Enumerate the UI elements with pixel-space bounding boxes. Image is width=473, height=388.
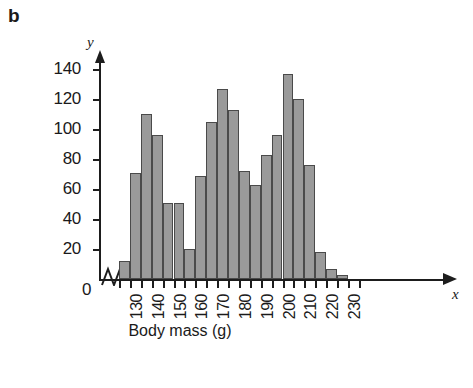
y-tick [93,249,99,251]
x-tick [304,281,306,288]
x-tick [195,281,197,288]
x-tick [119,281,121,288]
x-tick [184,281,186,288]
histogram-bar [228,110,239,280]
x-tick-label: 210 [303,294,319,319]
histogram-bar [272,135,283,279]
x-tick-label: 180 [238,294,254,319]
y-tick [93,159,99,161]
histogram-bar [326,269,337,280]
y-tick-label: 140 [54,60,81,77]
x-axis-title: Body mass (g) [30,322,330,340]
x-tick [206,281,208,288]
x-tick-label: 170 [216,294,232,319]
histogram-bar [152,135,163,279]
x-tick-label: 160 [194,294,210,319]
histogram-bar [293,99,304,279]
x-tick [261,281,263,288]
x-axis-symbol: x [452,286,459,303]
y-tick [93,69,99,71]
x-tick [337,281,339,288]
histogram-bar [217,89,228,280]
histogram-bars [101,48,447,279]
x-tick [239,281,241,288]
x-tick [326,281,328,288]
x-tick-label: 230 [347,294,363,319]
x-tick [217,281,219,288]
y-tick-label: 80 [63,150,81,167]
histogram-bar [184,249,195,279]
y-tick [93,219,99,221]
plot-area: y x 0 20406080100120140 1301401501601701… [99,48,459,288]
histogram-bar [174,203,185,280]
y-tick-label: 100 [54,120,81,137]
x-tick-label: 220 [325,294,341,319]
histogram-bar [315,252,326,279]
histogram-bar [304,165,315,279]
x-tick [348,281,350,288]
x-tick-label: 200 [282,294,298,319]
x-tick-label: 150 [173,294,189,319]
x-tick [228,281,230,288]
histogram-bar [163,203,174,280]
origin-label: 0 [82,281,91,298]
x-tick [272,281,274,288]
histogram-bar [250,185,261,280]
x-tick [141,281,143,288]
panel-letter: b [8,6,20,25]
histogram-bar [261,155,272,280]
x-tick [359,281,361,288]
y-tick [93,99,99,101]
y-tick-label: 20 [63,240,81,257]
x-tick [152,281,154,288]
figure-panel: b y x 0 20406080100120140 13014015016017… [0,0,473,388]
x-tick-label: 190 [260,294,276,319]
x-tick [315,281,317,288]
histogram-bar [239,171,250,279]
x-tick-label: 140 [151,294,167,319]
histogram-bar [337,275,348,280]
x-tick [130,281,132,288]
x-tick [163,281,165,288]
histogram-bar [283,74,294,280]
y-tick-label: 40 [63,210,81,227]
x-tick [283,281,285,288]
histogram-bar [130,173,141,280]
x-tick [293,281,295,288]
x-tick [174,281,176,288]
y-tick [93,129,99,131]
histogram-bar [206,122,217,280]
y-tick [93,189,99,191]
y-tick-label: 120 [54,90,81,107]
histogram-bar [141,114,152,279]
x-tick-label: 130 [129,294,145,319]
x-tick [250,281,252,288]
y-tick-label: 60 [63,180,81,197]
histogram-bar [119,261,130,279]
histogram-bar [195,176,206,280]
y-axis-symbol: y [87,34,94,51]
